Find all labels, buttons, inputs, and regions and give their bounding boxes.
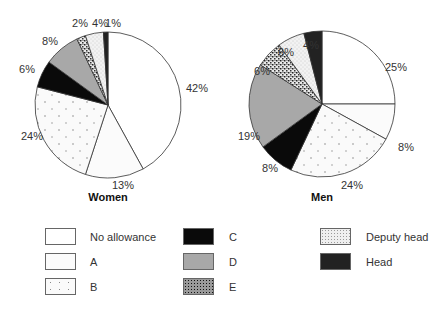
legend-swatch-head <box>320 253 351 270</box>
legend-label-a: A <box>90 255 97 269</box>
slice-percent-label: 25% <box>385 61 407 73</box>
legend-label-deputy-head: Deputy head <box>366 230 428 244</box>
slice-percent-label: 6% <box>19 63 35 75</box>
slice-percent-label: 1% <box>105 17 121 29</box>
legend-swatch-a <box>45 253 76 270</box>
slice-percent-label: 4% <box>303 39 319 51</box>
legend-swatch-d <box>183 253 214 270</box>
women-pie-chart: 42%13%24%6%8%2%4%1%Women <box>19 17 208 203</box>
legend-swatch-no-allowance <box>45 228 76 245</box>
slice-percent-label: 6% <box>254 65 270 77</box>
legend-label-c: C <box>229 230 237 244</box>
legend-label-head: Head <box>366 255 392 269</box>
legend-swatch-b <box>45 278 76 295</box>
legend-label-b: B <box>90 280 97 294</box>
chart-title: Men <box>311 191 333 203</box>
legend-swatch-c <box>183 228 214 245</box>
slice-percent-label: 6% <box>278 46 294 58</box>
slice-percent-label: 24% <box>341 179 363 191</box>
slice-percent-label: 8% <box>42 35 58 47</box>
men-pie-chart: 25%8%24%8%19%6%6%4%Men <box>238 31 414 203</box>
slice-percent-label: 24% <box>21 130 43 142</box>
slice-percent-label: 2% <box>72 17 88 29</box>
legend-label-e: E <box>229 280 236 294</box>
slice-percent-label: 8% <box>262 162 278 174</box>
legend-label-no-allowance: No allowance <box>90 230 156 244</box>
chart-title: Women <box>88 191 128 203</box>
slice-percent-label: 13% <box>112 179 134 191</box>
legend-swatch-e <box>183 278 214 295</box>
slice-percent-label: 42% <box>186 82 208 94</box>
legend-swatch-deputy-head <box>320 228 351 245</box>
slice-percent-label: 19% <box>238 130 260 142</box>
slice-percent-label: 8% <box>398 141 414 153</box>
legend-label-d: D <box>229 255 237 269</box>
